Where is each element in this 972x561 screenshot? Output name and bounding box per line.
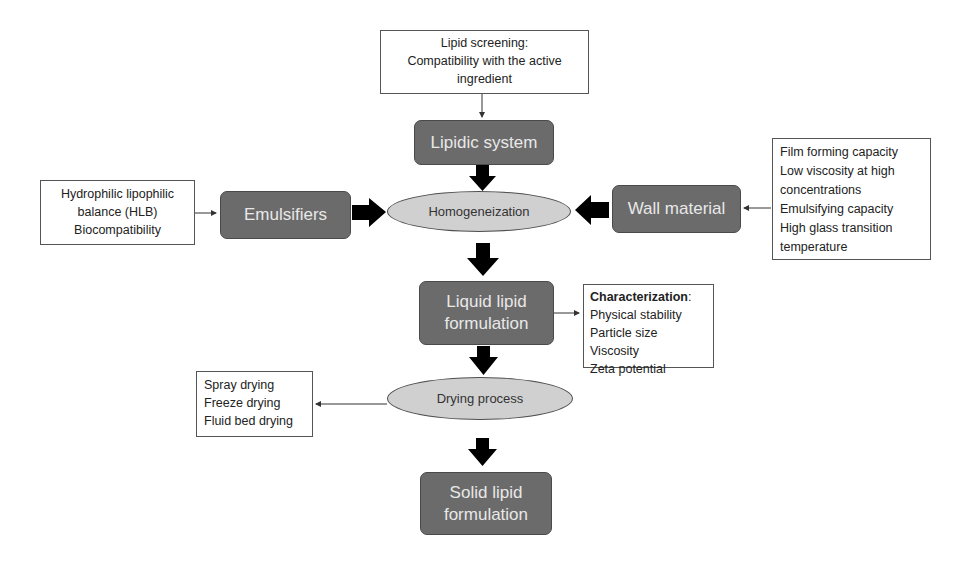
wall-material-node: Wall material	[612, 185, 741, 233]
note-line: Fluid bed drying	[204, 412, 312, 430]
homogenization-node: Homogeneization	[387, 191, 571, 232]
block-arrow-lipidic-to-homog	[469, 164, 496, 191]
note-line: Film forming capacity	[780, 143, 930, 162]
block-arrow-drying-to-solid	[468, 438, 497, 466]
note-line: Low viscosity at high	[780, 162, 930, 181]
block-arrow-homog-to-liquid	[467, 243, 499, 276]
note-line: Viscosity	[590, 342, 713, 360]
node-label-line: formulation	[444, 504, 528, 526]
emulsifiers-node: Emulsifiers	[220, 191, 351, 239]
note-line: Particle size	[590, 324, 713, 342]
emulsifier-criteria-note: Hydrophilic lipophilic balance (HLB) Bio…	[40, 180, 195, 245]
note-line: balance (HLB)	[41, 203, 194, 221]
block-arrow-wall-to-homog	[575, 195, 609, 225]
note-line: temperature	[780, 238, 930, 257]
wall-material-criteria-note: Film forming capacity Low viscosity at h…	[772, 138, 931, 260]
drying-methods-note: Spray drying Freeze drying Fluid bed dry…	[196, 371, 313, 437]
note-line: Freeze drying	[204, 394, 312, 412]
node-label: Emulsifiers	[244, 204, 327, 226]
solid-lipid-formulation-node: Solid lipid formulation	[420, 472, 552, 535]
block-arrow-emulsifiers-to-homog	[352, 198, 386, 227]
node-label-line: formulation	[444, 313, 528, 335]
note-line: Zeta potential	[590, 360, 713, 378]
node-label-line: Liquid lipid	[446, 291, 526, 313]
liquid-lipid-formulation-node: Liquid lipid formulation	[419, 281, 554, 345]
lipidic-system-node: Lipidic system	[414, 120, 554, 165]
note-line: Lipid screening:	[381, 34, 588, 52]
note-line: Compatibility with the active	[381, 52, 588, 70]
node-label: Homogeneization	[428, 204, 529, 219]
characterization-note: Characterization: Physical stability Par…	[583, 284, 714, 368]
note-line: Biocompatibility	[41, 221, 194, 239]
lipid-screening-note: Lipid screening: Compatibility with the …	[380, 30, 589, 94]
note-line: Spray drying	[204, 376, 312, 394]
note-line: concentrations	[780, 181, 930, 200]
node-label-line: Solid lipid	[450, 482, 523, 504]
node-label: Drying process	[437, 391, 524, 406]
node-label: Wall material	[628, 198, 726, 220]
node-label: Lipidic system	[431, 132, 538, 154]
note-line: High glass transition	[780, 219, 930, 238]
note-line: Physical stability	[590, 306, 713, 324]
note-line: ingredient	[381, 70, 588, 88]
note-line: Emulsifying capacity	[780, 200, 930, 219]
block-arrow-liquid-to-drying	[469, 346, 498, 375]
drying-process-node: Drying process	[387, 377, 573, 420]
note-line: Hydrophilic lipophilic	[41, 185, 194, 203]
characterization-title: Characterization:	[590, 288, 713, 306]
